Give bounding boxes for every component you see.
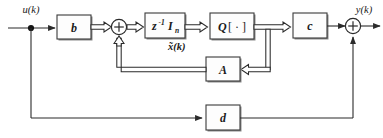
- output-signal-label: y(k): [355, 4, 373, 16]
- diagram-svg: u(k) b z -1 I n x̃(k) Q [ · ]: [0, 0, 383, 138]
- unit-delay-block: z -1 I n: [145, 13, 187, 40]
- left-summing-junction: [111, 19, 126, 34]
- state-signal-label: x̃(k): [167, 41, 186, 53]
- input-signal-label: u(k): [23, 4, 40, 16]
- quantizer-q-label: Q: [218, 20, 227, 34]
- sum-to-delay-vector-wire: [127, 22, 144, 32]
- quantizer-bracket-label: [ · ]: [228, 20, 246, 34]
- feedthrough-block: d: [206, 105, 242, 132]
- block-diagram-canvas: u(k) b z -1 I n x̃(k) Q [ · ]: [0, 0, 383, 138]
- b-to-sum-vector-wire: [91, 22, 112, 32]
- state-signal-text: x̃(k): [167, 41, 186, 53]
- output-gain-block: c: [293, 13, 329, 40]
- quantizer-block: Q [ · ]: [210, 13, 256, 41]
- output-gain-label: c: [307, 19, 313, 33]
- delay-exponent-label: -1: [159, 18, 165, 27]
- input-gain-block: b: [57, 15, 93, 41]
- input-gain-label: b: [71, 21, 77, 35]
- feedthrough-output-wire: [240, 37, 353, 118]
- delay-to-quantizer-vector-wire: [185, 22, 208, 32]
- a-feedback-vector-wire: [114, 36, 206, 72]
- feedthrough-label: d: [220, 111, 227, 125]
- delay-subscript-label: n: [175, 26, 179, 35]
- state-matrix-block: A: [206, 57, 242, 83]
- right-summing-junction: [345, 18, 360, 33]
- delay-z-label: z: [151, 19, 157, 33]
- state-matrix-label: A: [218, 63, 227, 77]
